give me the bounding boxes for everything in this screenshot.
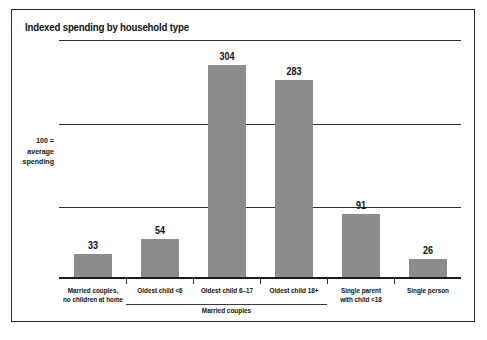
bar-1[interactable] — [141, 239, 179, 277]
bar-4[interactable] — [342, 214, 380, 277]
y-axis-caption: 0 100 = average spending — [15, 136, 54, 168]
axis-tick-4 — [327, 278, 328, 284]
bar-2[interactable] — [208, 65, 246, 277]
category-label-line: Single person — [407, 287, 449, 294]
category-label-line: Married couples, — [67, 287, 117, 294]
plot-area: 33543042839126 — [59, 40, 461, 278]
axis-tick-1 — [126, 278, 127, 284]
group-bracket-label: Married couples — [134, 307, 319, 314]
bar-value-label-5: 26 — [401, 245, 455, 256]
gridline-220 — [59, 124, 461, 125]
page-title: Indexed spending by household type — [25, 21, 189, 33]
chart-figure: Indexed spending by household type 0 100… — [11, 9, 475, 322]
bar-value-label-4: 91 — [334, 200, 388, 211]
bar-value-label-3: 283 — [267, 66, 321, 77]
bar-5[interactable] — [409, 259, 447, 277]
category-label-5: Single person — [383, 286, 471, 295]
bar-value-label-1: 54 — [133, 225, 187, 236]
y-axis-caption-text-1: 100 = — [36, 136, 54, 145]
bar-value-label-2: 304 — [200, 51, 254, 62]
category-label-line: Oldest child 18+ — [269, 287, 318, 294]
axis-tick-2 — [193, 278, 194, 284]
axis-tick-5 — [394, 278, 395, 284]
bar-value-label-0: 33 — [66, 240, 120, 251]
category-label-line: Single parent — [340, 287, 380, 294]
category-label-line: with child <18 — [340, 296, 382, 303]
y-axis-caption-text-2: average — [27, 147, 54, 156]
y-axis-caption-text-3: spending — [23, 157, 54, 166]
category-label-line: Oldest child 6–17 — [200, 287, 252, 294]
bar-3[interactable] — [275, 80, 313, 277]
axis-tick-3 — [260, 278, 261, 284]
gridline-340 — [59, 40, 461, 41]
category-label-line: Oldest child <6 — [137, 287, 182, 294]
category-label-line: no children at home — [62, 296, 122, 303]
group-bracket-rule — [126, 304, 327, 305]
bar-0[interactable] — [74, 254, 112, 277]
gridline-100 — [59, 207, 461, 208]
